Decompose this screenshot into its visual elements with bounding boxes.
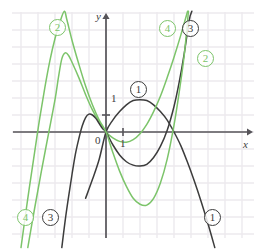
tag-2-upper-left: 2 (49, 19, 66, 36)
tag-1-center: 1 (130, 81, 147, 98)
tag-3-lower-left: 3 (42, 209, 59, 226)
tag-4-lower-left: 4 (17, 209, 34, 226)
curve-1 (86, 100, 215, 248)
tag-4-upper-right: 4 (159, 20, 176, 37)
plot-canvas (0, 0, 266, 249)
tag-1-lower-right: 1 (204, 209, 221, 226)
grid-lines (12, 12, 254, 238)
graph-figure: y x 0 1 1 24321431 (0, 0, 266, 249)
tag-2-right: 2 (197, 50, 214, 67)
tag-3-upper-right: 3 (182, 20, 199, 37)
